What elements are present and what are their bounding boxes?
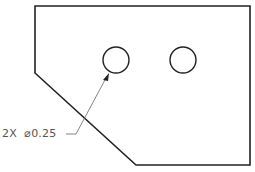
technical-drawing xyxy=(0,0,255,172)
hole-callout-label: 2X ⌀0.25 xyxy=(2,127,56,141)
hole-left xyxy=(103,47,129,73)
part-outline xyxy=(35,6,250,165)
hole-right xyxy=(170,47,196,73)
leader-arrowhead-icon xyxy=(103,73,109,81)
